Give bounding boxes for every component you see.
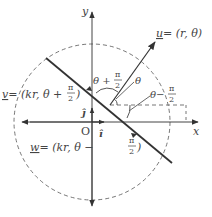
w-close-paren: ) xyxy=(136,141,141,154)
theta-minus-num: π xyxy=(169,84,174,93)
theta-label: θ xyxy=(135,75,141,86)
angle-theta-minus-arc xyxy=(127,105,130,118)
vector-diagram: y x O î ĵ u= (r, θ) v= (kr, θ + π 2 ) w=… xyxy=(0,0,212,217)
y-axis-label: y xyxy=(81,5,89,18)
j-hat-label: ĵ xyxy=(80,107,86,118)
theta-minus-label: θ− xyxy=(150,89,164,100)
v-label: v= (kr, θ + xyxy=(2,88,62,101)
w-label: w= (kr, θ − xyxy=(30,141,93,154)
w-frac-den: 2 xyxy=(129,147,134,156)
angle-theta-arc xyxy=(114,99,117,105)
origin-label: O xyxy=(81,125,90,138)
w-frac-num: π xyxy=(129,136,134,145)
u-label: u= (r, θ) xyxy=(156,27,202,40)
v-frac-num: π xyxy=(68,83,73,92)
theta-plus-label: θ + xyxy=(93,75,111,86)
i-hat-label: î xyxy=(99,128,104,139)
theta-minus-leader xyxy=(129,96,150,111)
v-frac-den: 2 xyxy=(68,94,73,103)
v-arrow-icon xyxy=(86,86,92,91)
theta-plus-num: π xyxy=(115,70,120,79)
theta-minus-den: 2 xyxy=(169,95,174,104)
theta-plus-den: 2 xyxy=(115,81,120,90)
x-axis-label: x xyxy=(193,125,200,138)
v-close-paren: ) xyxy=(75,88,80,101)
